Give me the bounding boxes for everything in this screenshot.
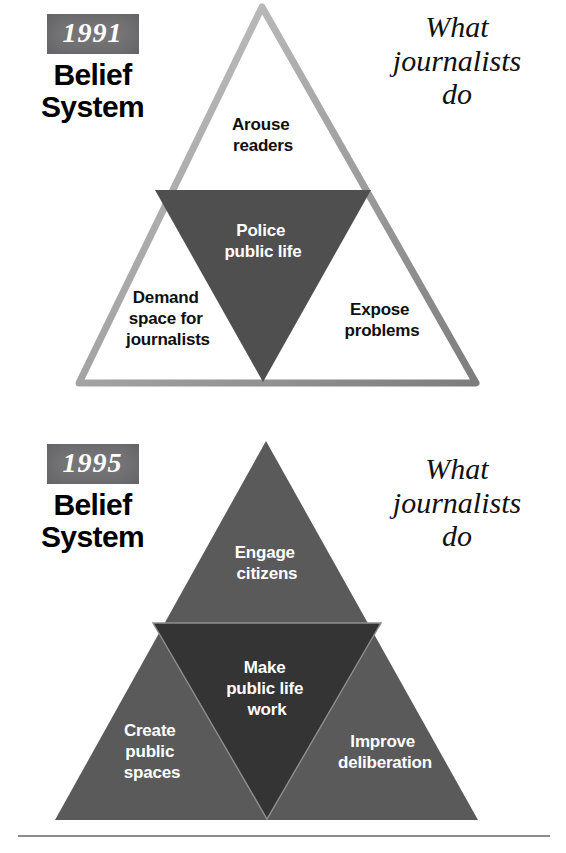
pyramid-1991: Arouse readers Demand space for journali…	[0, 0, 566, 420]
panel-1991: 1991 Belief System What journalists do	[0, 0, 566, 420]
panel-1995: 1995 Belief System What journalists do E…	[0, 420, 566, 853]
zone-left-label-1991: Demand space for journalists	[125, 288, 210, 349]
zone-left-label-1995: Create public spaces	[124, 721, 180, 782]
footer-rule	[18, 835, 550, 837]
diagram-page: 1991 Belief System What journalists do	[0, 0, 566, 853]
pyramid-1995: Engage citizens Create public spaces Imp…	[0, 420, 566, 853]
